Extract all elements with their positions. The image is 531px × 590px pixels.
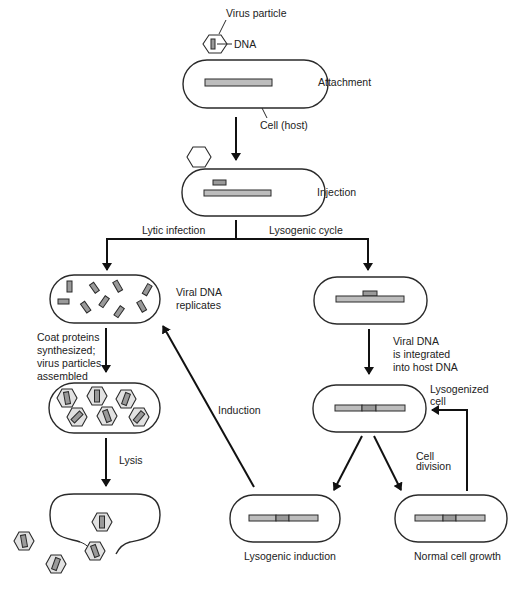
label-lysogenized-line2: cell <box>430 395 446 407</box>
host-dna-left-segment <box>335 405 362 411</box>
assembly-stage <box>49 383 160 433</box>
prophage-dna-segment <box>443 515 456 521</box>
label-virus-particle: Virus particle <box>226 7 287 19</box>
arrow-to-lysogenic-induction <box>334 436 362 490</box>
lysis-stage <box>14 494 160 573</box>
virus-particle-leader-line <box>219 20 226 34</box>
label-lysogenized-line1: Lysogenized <box>430 383 489 395</box>
label-induction: Induction <box>218 404 261 416</box>
label-coat-proteins-line4: assembled <box>37 370 88 382</box>
label-lytic-infection: Lytic infection <box>142 224 205 236</box>
label-injection: Injection <box>317 186 356 198</box>
label-cell-host: Cell (host) <box>260 119 308 131</box>
injection-stage <box>182 169 325 216</box>
lysogenized-cell-stage <box>313 385 426 432</box>
label-coat-proteins-line2: synthesized; <box>37 344 95 356</box>
prophage-dna-segment <box>362 405 376 411</box>
cell-host-leader-line <box>262 108 267 118</box>
label-integrated-line1: Viral DNA <box>393 335 439 347</box>
arrow-to-normal-cell-growth <box>374 436 401 490</box>
host-dna-right-segment <box>289 515 318 521</box>
viral-dna-icon <box>363 291 377 296</box>
label-coat-proteins-line1: Coat proteins <box>37 331 99 343</box>
host-dna-left-segment <box>415 515 443 521</box>
label-integrated-line3: into host DNA <box>393 361 458 373</box>
label-integrated-line2: is integrated <box>393 348 450 360</box>
attachment-stage <box>183 20 328 118</box>
label-normal-cell-growth: Normal cell growth <box>414 550 501 562</box>
label-cell-division-line2: division <box>416 460 451 472</box>
host-dna-right-segment <box>376 405 405 411</box>
normal-cell-growth-stage <box>395 495 507 542</box>
host-dna-icon <box>336 296 404 302</box>
lysogenic-induction-stage <box>230 495 340 542</box>
label-lysogenic-induction: Lysogenic induction <box>244 550 336 562</box>
injected-viral-dna-icon <box>213 180 226 185</box>
label-lysogenic-cycle: Lysogenic cycle <box>269 224 343 236</box>
label-coat-proteins-line3: virus particles <box>37 357 101 369</box>
label-viral-dna-replicates-line1: Viral DNA <box>176 286 222 298</box>
label-dna: DNA <box>234 38 256 50</box>
label-attachment: Attachment <box>318 76 371 88</box>
host-dna-icon <box>205 79 272 86</box>
label-lysis: Lysis <box>119 454 143 466</box>
prophage-dna-segment <box>276 515 289 521</box>
host-dna-left-segment <box>249 515 276 521</box>
host-dna-right-segment <box>456 515 485 521</box>
prophage-integration-stage <box>314 277 427 324</box>
phage-life-cycle-diagram: Virus particle DNA Attachment Cell (host… <box>0 0 531 590</box>
viral-dna-replicates-stage <box>50 275 160 323</box>
empty-capsid-icon <box>187 147 211 167</box>
label-viral-dna-replicates-line2: replicates <box>176 299 221 311</box>
host-dna-icon <box>204 190 271 196</box>
